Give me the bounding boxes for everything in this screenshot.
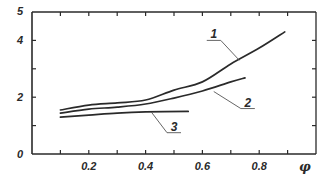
x-axis-title: φ [299,159,311,174]
x-tick-label: 0.2 [81,160,96,172]
y-tick-label: 0 [17,148,24,160]
y-tick-label: 5 [17,5,24,17]
series-1-leader-line [221,40,240,60]
y-tick-label: 2 [16,91,23,103]
x-tick-label: 0.4 [138,160,153,172]
chart: 0.20.40.60.80245 123 φ [0,0,327,181]
series-2-line [60,78,245,113]
x-tick-label: 0.8 [252,160,268,172]
series-3-leader-line [151,112,167,133]
series-labels: 123 [151,27,255,133]
x-tick-label: 0.6 [195,160,211,172]
axis-tick-labels: 0.20.40.60.80245 [16,5,268,172]
series-3-line [60,111,188,117]
series-2-label: 2 [243,96,251,110]
series-3-label: 3 [171,120,178,134]
y-tick-label: 4 [16,34,23,46]
series-1-label: 1 [210,27,217,41]
series-2-leader-line [214,92,241,109]
